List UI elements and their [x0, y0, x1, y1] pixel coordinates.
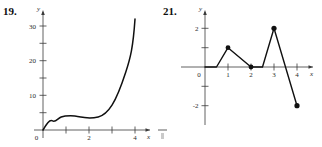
x-axis-label-21: x [309, 70, 314, 78]
plot-21-svg: 0 1 2 3 4 2 -2 y x [161, 0, 322, 147]
curve-19 [43, 19, 135, 130]
x-axis-label-19: x [146, 133, 151, 141]
data-point-marker [294, 103, 299, 108]
data-point-marker [226, 45, 231, 50]
plot-19: 0 2 4 10 20 30 y x [0, 0, 161, 147]
x-axis-arrow-19 [146, 128, 151, 132]
scan-artifact-mark [158, 129, 167, 131]
y-tick-label-neg2-21: -2 [193, 102, 199, 110]
x-tick-label-2-21: 2 [249, 71, 253, 79]
figure-panel-19: 19. [0, 0, 161, 147]
x-tick-label-1-21: 1 [226, 71, 230, 79]
y-tick-label-30-19: 30 [29, 23, 37, 31]
scan-artifact-mark-2 [161, 133, 164, 139]
origin-label-19: 0 [35, 134, 39, 142]
plot-21: 0 1 2 3 4 2 -2 y x [161, 0, 322, 147]
y-axis-arrow-21 [203, 10, 207, 15]
data-point-marker [249, 65, 254, 70]
y-tick-label-2-21: 2 [195, 25, 199, 33]
y-tick-label-10-19: 10 [29, 92, 37, 100]
origin-label-21: 0 [197, 71, 201, 79]
x-tick-label-2-19: 2 [87, 134, 91, 142]
y-axis-arrow-19 [41, 10, 45, 15]
plot-19-svg: 0 2 4 10 20 30 y x [0, 0, 161, 147]
y-axis-label-19: y [36, 5, 41, 13]
data-point-marker [271, 26, 276, 31]
x-tick-label-4-19: 4 [133, 134, 137, 142]
y-tick-label-20-19: 20 [29, 57, 37, 65]
x-tick-label-3-21: 3 [272, 71, 276, 79]
figure-panel-21: 21. 0 1 [161, 0, 322, 147]
figure-page: 19. [0, 0, 322, 147]
x-tick-label-4-21: 4 [295, 71, 299, 79]
y-axis-label-21: y [198, 5, 203, 13]
x-axis-arrow-21 [309, 65, 314, 69]
